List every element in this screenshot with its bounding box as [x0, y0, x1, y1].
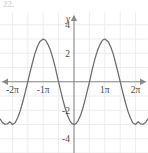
x-tick-label: -2π — [6, 85, 19, 95]
y-axis-label: y — [65, 14, 71, 24]
y-tick-label: -2 — [62, 106, 70, 116]
x-tick-label: -1π — [37, 85, 50, 95]
axes — [2, 15, 146, 153]
coordinate-plane-svg: -2π-1π1π2π42-2-4y — [0, 12, 148, 153]
x-tick-label: 2π — [131, 85, 141, 95]
graph-plot-area: -2π-1π1π2π42-2-4y — [0, 12, 148, 153]
y-tick-label: 2 — [65, 49, 70, 59]
problem-number-label: 22. — [3, 0, 14, 9]
y-tick-label: -4 — [62, 134, 70, 144]
x-tick-label: 1π — [100, 85, 110, 95]
figure-container: 22. -2π-1π1π2π42-2-4y — [0, 0, 148, 153]
